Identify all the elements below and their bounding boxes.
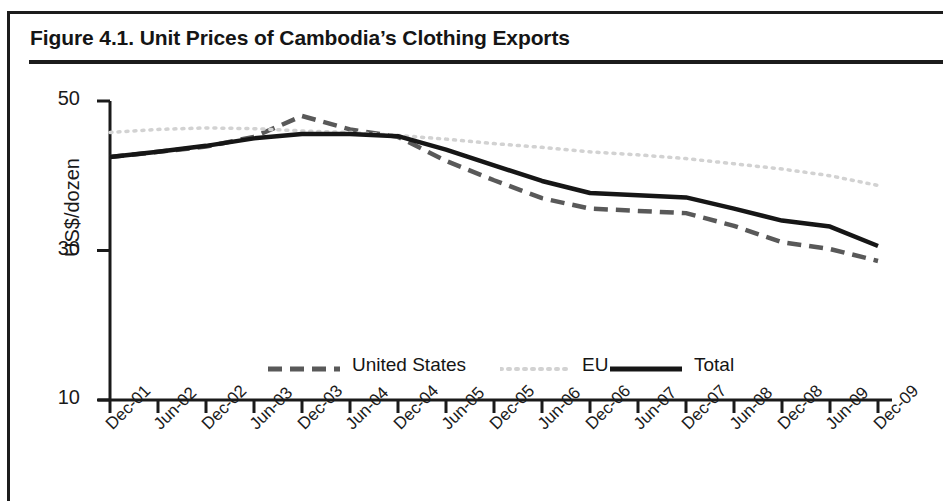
y-tick-label: 30: [34, 237, 80, 260]
legend-swatch-dashed: [268, 362, 340, 376]
legend-label: Total: [694, 354, 734, 376]
y-axis-title: US$/dozen: [61, 128, 84, 288]
chart-plot-area: [0, 0, 943, 501]
y-tick-label: 10: [34, 386, 80, 409]
series-line-0: [110, 116, 878, 261]
legend-label: EU: [582, 354, 608, 376]
figure-container: Figure 4.1. Unit Prices of Cambodia’s Cl…: [0, 0, 943, 501]
y-tick-label: 50: [34, 87, 80, 110]
series-line-2: [110, 134, 878, 246]
legend-swatch-dotted: [500, 362, 570, 376]
line-chart-svg: [0, 0, 943, 501]
legend-label: United States: [352, 354, 466, 376]
series-line-1: [110, 128, 878, 186]
legend-swatch-solid: [610, 362, 682, 376]
